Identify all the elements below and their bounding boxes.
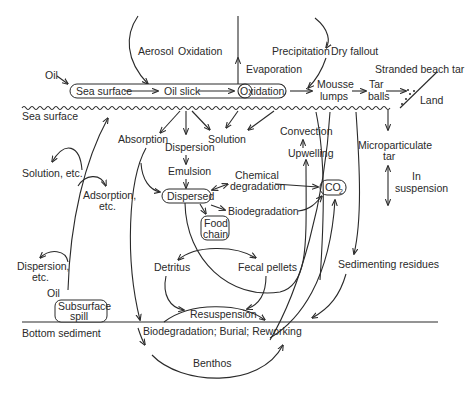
detritus-to-resuspension-arrow bbox=[165, 276, 184, 310]
to-solution-arrow-3 bbox=[248, 111, 274, 130]
label-mousse-2: lumps bbox=[320, 90, 348, 102]
label-micro-tar: tar bbox=[383, 150, 396, 162]
to-solution-arrow-2 bbox=[226, 111, 238, 128]
label-sedimenting-residues: Sedimenting residues bbox=[338, 258, 439, 270]
label-co2-sub: 2 bbox=[339, 188, 343, 195]
foodchain-detritus-fecal-arrow bbox=[178, 248, 256, 260]
dispersed-chemdeg-arrow bbox=[212, 184, 228, 190]
label-detritus: Detritus bbox=[154, 261, 190, 273]
label-chain: chain bbox=[203, 228, 228, 240]
label-spill: spill bbox=[70, 310, 88, 322]
label-fecal-pellets: Fecal pellets bbox=[238, 261, 297, 273]
to-absorption-arrow bbox=[160, 111, 180, 133]
label-convection: Convection bbox=[280, 125, 333, 137]
oil-fate-diagram: Sea surface Bottom sediment Land Aerosol… bbox=[0, 0, 468, 398]
absorption-to-dispersed-arrow bbox=[141, 163, 160, 192]
box-oxidation: Oxidation bbox=[240, 85, 285, 97]
box-sea-surface: Sea surface bbox=[76, 85, 132, 97]
label-sea-surface: Sea surface bbox=[22, 110, 78, 122]
label-tar-2: balls bbox=[368, 90, 390, 102]
label-solution: Solution bbox=[208, 133, 246, 145]
label-dispersed: Dispersed bbox=[167, 190, 214, 202]
oil-input-arrow bbox=[57, 76, 68, 84]
label-biodegradation: Biodegradation bbox=[228, 205, 299, 217]
box-oil-slick: Oil slick bbox=[164, 85, 201, 97]
label-dispersion-etc-2: etc. bbox=[32, 271, 49, 283]
absorption-down-arrow bbox=[130, 148, 146, 320]
label-adsorption-etc: etc. bbox=[99, 200, 116, 212]
label-stranded-beach-tar: Stranded beach tar bbox=[375, 63, 465, 75]
label-sediment-processes: Biodegradation; Burial; Reworking bbox=[143, 325, 302, 337]
label-dry-fallout: Dry fallout bbox=[331, 45, 378, 57]
label-suspension: suspension bbox=[395, 182, 448, 194]
to-solution-arrow-1 bbox=[192, 111, 210, 130]
label-oxidation-atm: Oxidation bbox=[178, 45, 223, 57]
label-resuspension: Resuspension bbox=[190, 308, 257, 320]
label-bottom-sediment: Bottom sediment bbox=[22, 327, 101, 339]
dry-fallout-arrow bbox=[315, 18, 328, 48]
label-evaporation: Evaporation bbox=[246, 63, 302, 75]
label-benthos: Benthos bbox=[193, 357, 232, 369]
label-degradation: degradation bbox=[230, 180, 286, 192]
dispersed-to-foodchain-arrow bbox=[200, 204, 206, 214]
label-precipitation: Precipitation bbox=[272, 45, 330, 57]
microtar-to-sedimenting-arrow bbox=[354, 112, 360, 254]
label-mousse-1: Mousse bbox=[317, 78, 354, 90]
label-in: In bbox=[412, 170, 421, 182]
label-emulsion: Emulsion bbox=[168, 165, 211, 177]
label-aerosol: Aerosol bbox=[138, 45, 174, 57]
label-subsurface-oil: Oil bbox=[47, 287, 60, 299]
label-tar-1: Tar bbox=[369, 78, 384, 90]
label-solution-etc: Solution, etc. bbox=[22, 167, 83, 179]
label-land: Land bbox=[420, 94, 444, 106]
label-oil-input: Oil bbox=[45, 69, 58, 81]
dispersed-to-biodeg-arrow bbox=[211, 205, 225, 210]
label-absorption: Absorption bbox=[118, 133, 168, 145]
